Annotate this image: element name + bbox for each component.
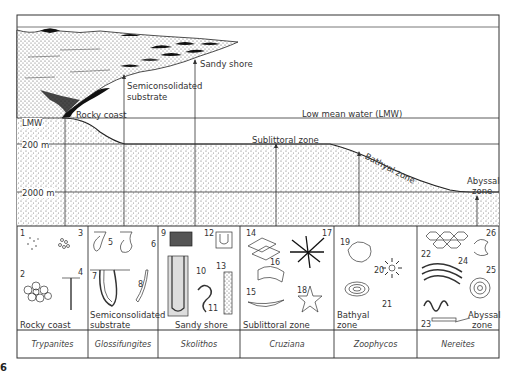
trace-number: 5	[108, 238, 113, 247]
trace-number: 16	[270, 258, 280, 267]
trace-number: 20	[374, 266, 384, 275]
trace-number: 9	[161, 229, 166, 238]
trace-number: 13	[216, 262, 226, 271]
trace-number: 1	[20, 229, 25, 238]
trace-number: 15	[246, 288, 256, 297]
sublittoral-zone-label: Sublittoral zone	[252, 135, 319, 145]
200m-label: 200 m	[22, 140, 49, 150]
trace-number: 3	[78, 229, 83, 238]
panel-zone-label: zone	[472, 320, 492, 330]
rocky-coast-label: Rocky coast	[76, 110, 127, 120]
ichnofacies-glossifungites: Glossifungites	[88, 340, 158, 349]
trace-number: 23	[421, 320, 431, 329]
trace-number: 21	[382, 300, 392, 309]
trace-number: 14	[246, 229, 256, 238]
panel-zone-label: substrate	[90, 320, 130, 330]
sandy-shore-label: Sandy shore	[200, 59, 253, 69]
abyssal-label-1: Abyssal	[467, 176, 500, 186]
trace-number: 11	[208, 304, 218, 313]
trace-number: 22	[421, 250, 431, 259]
trace-number: 12	[204, 229, 214, 238]
trace-number: 18	[297, 286, 307, 295]
panel-zone-label: Rocky coast	[20, 320, 71, 330]
ichnofacies-diagram	[0, 0, 514, 374]
panel-zone-label: Semiconsolidated	[90, 310, 165, 320]
trace-number: 10	[196, 267, 206, 276]
panel-zone-label: Abyssal	[468, 310, 501, 320]
trace-number: 25	[486, 266, 496, 275]
trace-number: 2	[20, 270, 25, 279]
semiconsolidated-label-2: substrate	[127, 92, 167, 102]
ichnofacies-zoophycos: Zoophycos	[334, 340, 417, 349]
ichnofacies-nereites: Nereites	[417, 340, 499, 349]
trace-number: 19	[340, 238, 350, 247]
low-mean-water-label: Low mean water (LMW)	[302, 109, 402, 119]
trace-number: 8	[138, 280, 143, 289]
ichnofacies-cruziana: Cruziana	[240, 340, 334, 349]
semiconsolidated-label-1: Semiconsolidated	[127, 81, 202, 91]
trace-number: 6	[151, 240, 156, 249]
abyssal-label-2: zone	[472, 186, 492, 196]
figure-number: 6	[0, 362, 7, 373]
panel-zone-label: Sublittoral zone	[243, 320, 310, 330]
panel-zone-label: Bathyal	[337, 310, 369, 320]
trace-number: 26	[486, 229, 496, 238]
2000m-label: 2000 m	[22, 188, 55, 198]
trace-number: 24	[458, 257, 468, 266]
ichnofacies-skolithos: Skolithos	[158, 340, 240, 349]
coastal-cliff	[17, 29, 238, 119]
sea-floor-profile	[17, 113, 499, 226]
panel-zone-label: Sandy shore	[175, 320, 228, 330]
lmw-label: LMW	[22, 118, 42, 128]
trace-number: 4	[78, 268, 83, 277]
trace-number: 17	[322, 229, 332, 238]
ichnofacies-trypanites: Trypanites	[17, 340, 88, 349]
trace-number: 7	[92, 272, 97, 281]
panel-zone-label: zone	[337, 320, 357, 330]
